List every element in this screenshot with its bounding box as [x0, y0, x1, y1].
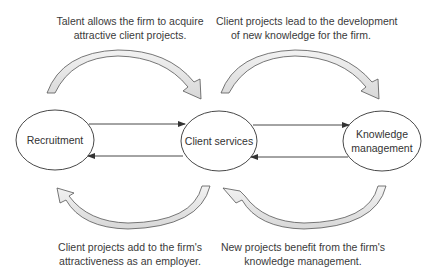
curved-arrow-top-right — [221, 50, 379, 99]
node-label-line: management — [343, 141, 421, 155]
caption-top-left: Talent allows the firm to acquire attrac… — [55, 14, 205, 42]
node-label-client-services: Client services — [181, 134, 257, 148]
node-label-recruitment: Recruitment — [16, 133, 94, 147]
curved-arrow-top-left — [47, 50, 201, 99]
caption-line: attractive client projects. — [55, 28, 205, 42]
caption-line: Talent allows the firm to acquire — [55, 14, 205, 28]
node-label-knowledge-management: Knowledge management — [343, 127, 421, 155]
caption-bottom-left: Client projects add to the firm's attrac… — [55, 240, 205, 268]
curved-arrow-bottom-right — [223, 186, 386, 229]
node-label-line: Knowledge — [343, 127, 421, 141]
caption-bottom-right: New projects benefit from the firm's kno… — [218, 240, 388, 268]
caption-line: of new knowledge for the firm. — [216, 28, 386, 42]
caption-line: New projects benefit from the firm's — [218, 240, 388, 254]
caption-line: Client projects add to the firm's — [55, 240, 205, 254]
caption-line: attractiveness as an employer. — [55, 254, 205, 268]
caption-line: Client projects lead to the development — [216, 14, 386, 28]
caption-line: knowledge management. — [218, 254, 388, 268]
caption-top-right: Client projects lead to the development … — [216, 14, 386, 42]
curved-arrow-bottom-left — [57, 186, 210, 229]
